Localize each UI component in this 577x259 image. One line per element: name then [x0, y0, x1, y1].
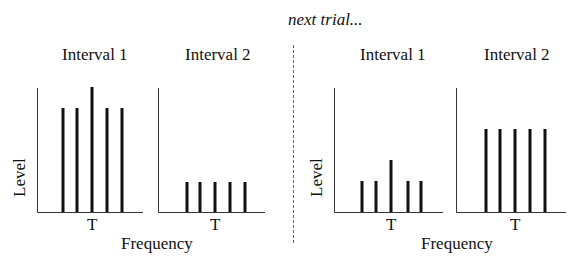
trial1-x-axis-label: Frequency [121, 235, 193, 252]
trial1-interval2-title: Interval 2 [185, 46, 251, 63]
trial1-interval2-component-3 [214, 182, 217, 212]
trial2-x-axis-label: Frequency [421, 235, 493, 252]
trial2-interval2-component-5 [544, 129, 547, 212]
trial1-y-axis-label: Level [11, 158, 28, 197]
trial1-interval1-component-5 [121, 108, 124, 212]
trial2-interval1-component-5 [420, 181, 423, 212]
trial1-interval2-tick-T: T [210, 216, 220, 233]
trial1-interval1-tick-T: T [87, 216, 97, 233]
trial1-interval2-component-5 [244, 182, 247, 212]
trial1-interval2-component-1 [186, 182, 189, 212]
trial2-interval2-component-2 [499, 129, 502, 212]
trial2-interval2-tick-T: T [510, 216, 520, 233]
next-trial-label: next trial... [288, 11, 363, 28]
trial2-interval1-component-2 [375, 181, 378, 212]
trial2-interval1-title: Interval 1 [360, 46, 426, 63]
trial2-interval1-component-3 [390, 160, 393, 212]
two-interval-diagram: next trial... Interval 1 Interval 2 Leve… [0, 0, 577, 259]
trial2-interval2-title: Interval 2 [484, 46, 550, 63]
trial2-y-axis-label: Level [308, 158, 325, 197]
trial2-interval1-component-4 [407, 181, 410, 212]
trial1-interval1-title: Interval 1 [62, 46, 128, 63]
trial2-interval1-tick-T: T [386, 216, 396, 233]
trial1-interval1-component-4 [106, 108, 109, 212]
trial1-interval1-component-3 [91, 87, 94, 212]
trial2-interval2-component-4 [529, 129, 532, 212]
trial1-interval2-component-2 [199, 182, 202, 212]
trial2-interval1-component-1 [361, 181, 364, 212]
trial2-interval2-component-1 [485, 129, 488, 212]
trial1-interval2-component-4 [229, 182, 232, 212]
trial2-interval2-component-3 [514, 129, 517, 212]
trial1-interval1-component-1 [62, 108, 65, 212]
trial1-interval1-component-2 [76, 108, 79, 212]
